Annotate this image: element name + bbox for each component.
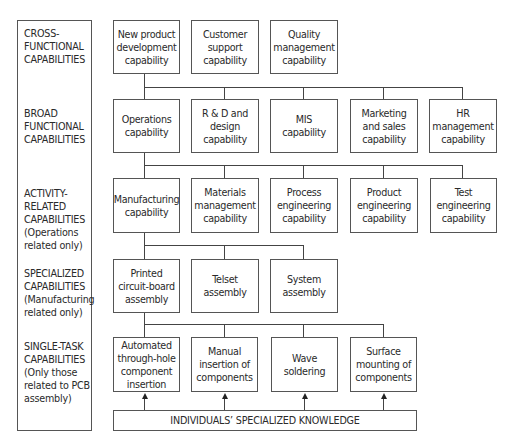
connector-line bbox=[303, 324, 304, 338]
connector-line bbox=[303, 245, 304, 260]
level-label-activity-related: ACTIVITY- RELATED CAPABILITIES (Operatio… bbox=[24, 187, 85, 252]
level-label-cross-functional: CROSS- FUNCTIONAL CAPABILITIES bbox=[24, 27, 85, 66]
level-label-specialized: SPECIALIZED CAPABILITIES (Manufacturing … bbox=[24, 267, 94, 319]
knowledge-foundation-bar: INDIVIDUALS’ SPECIALIZED KNOWLEDGE bbox=[113, 410, 417, 431]
connector-line bbox=[144, 313, 145, 338]
node-telset-assembly: Telset assembly bbox=[191, 259, 259, 313]
node-quality-management: Quality management capability bbox=[270, 20, 338, 74]
node-pcb-assembly: Printed circuit-board assembly bbox=[113, 259, 180, 313]
connector-line bbox=[224, 245, 225, 260]
arrow-up-icon bbox=[222, 393, 228, 399]
arrow-up-icon bbox=[142, 393, 148, 399]
node-surface-mounting: Surface mounting of components bbox=[350, 337, 417, 392]
connector-line bbox=[224, 165, 225, 179]
node-operations: Operations capability bbox=[113, 99, 180, 153]
arrow-up-icon bbox=[381, 393, 387, 399]
arrow-up-icon bbox=[302, 393, 308, 399]
connector-line bbox=[303, 165, 304, 179]
connector-line bbox=[383, 324, 384, 338]
connector-line bbox=[462, 165, 463, 179]
node-rd-design: R & D and design capability bbox=[191, 99, 259, 153]
connector-line bbox=[144, 233, 145, 260]
node-system-assembly: System assembly bbox=[270, 259, 338, 313]
node-marketing-sales: Marketing and sales capability bbox=[350, 99, 418, 153]
level-label-single-task: SINGLE-TASK CAPABILITIES (Only those rel… bbox=[24, 340, 90, 405]
node-new-product-development: New product development capability bbox=[113, 20, 180, 74]
node-manufacturing: Manufacturing capability bbox=[113, 178, 180, 233]
node-automated-through-hole: Automated through-hole component inserti… bbox=[113, 337, 180, 392]
node-manual-insertion: Manual insertion of components bbox=[191, 337, 258, 392]
node-hr-management: HR management capability bbox=[429, 99, 497, 153]
connector-line bbox=[224, 324, 225, 338]
level-label-broad-functional: BROAD FUNCTIONAL CAPABILITIES bbox=[24, 107, 85, 146]
connector-line bbox=[383, 165, 384, 179]
node-test-engineering: Test engineering capability bbox=[430, 178, 497, 233]
node-wave-soldering: Wave soldering bbox=[271, 337, 338, 392]
connector-line bbox=[144, 324, 384, 325]
node-mis: MIS capability bbox=[270, 99, 338, 153]
node-materials-management: Materials management capability bbox=[191, 178, 259, 233]
node-process-engineering: Process engineering capability bbox=[270, 178, 338, 233]
node-product-engineering: Product engineering capability bbox=[350, 178, 418, 233]
node-customer-support: Customer support capability bbox=[191, 20, 259, 74]
